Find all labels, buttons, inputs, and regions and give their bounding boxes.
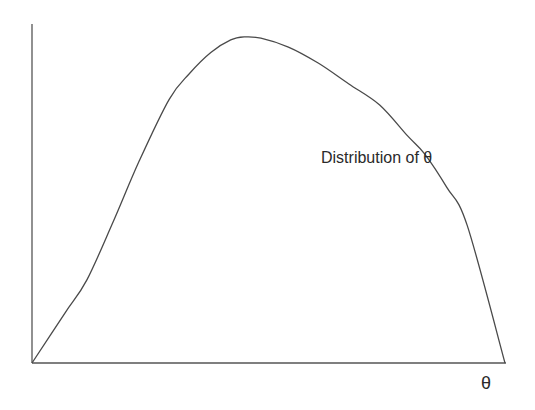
x-axis-label: θ <box>481 373 491 394</box>
curve-annotation: Distribution of θ <box>321 149 432 167</box>
distribution-curve <box>32 37 505 363</box>
chart-canvas <box>0 0 535 410</box>
